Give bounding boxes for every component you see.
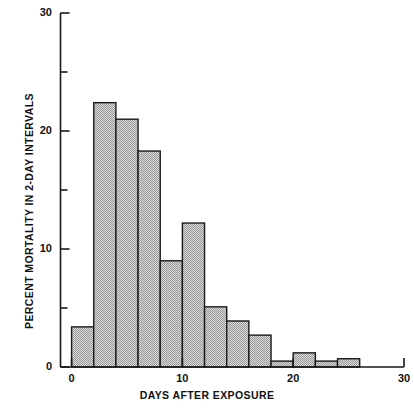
chart-svg: [0, 0, 414, 412]
y-tick-label: 0: [10, 360, 52, 372]
x-tick-label: 10: [162, 372, 202, 384]
histogram-bar: [205, 307, 227, 367]
y-tick-label: 20: [10, 124, 52, 136]
histogram-bar: [116, 119, 138, 367]
y-axis-ticks: [61, 13, 70, 367]
histogram-bar: [72, 327, 94, 367]
histogram-bar: [249, 335, 271, 367]
y-tick-label: 10: [10, 242, 52, 254]
x-tick-label: 30: [384, 372, 414, 384]
histogram-bar: [271, 361, 293, 367]
histogram-bar: [94, 103, 116, 367]
histogram-bar: [160, 261, 182, 367]
x-tick-label: 0: [52, 372, 92, 384]
histogram-bar: [227, 321, 249, 367]
histogram-bar: [138, 151, 160, 367]
bar-series: [72, 103, 360, 367]
plot-area: [0, 0, 414, 412]
y-tick-label: 30: [10, 6, 52, 18]
histogram-bar: [182, 223, 204, 367]
histogram-bar: [293, 353, 315, 367]
x-tick-label: 20: [273, 372, 313, 384]
histogram-bar: [315, 361, 337, 367]
histogram-figure: PERCENT MORTALITY IN 2-DAY INTERVALS DAY…: [0, 0, 414, 412]
histogram-bar: [338, 359, 360, 367]
